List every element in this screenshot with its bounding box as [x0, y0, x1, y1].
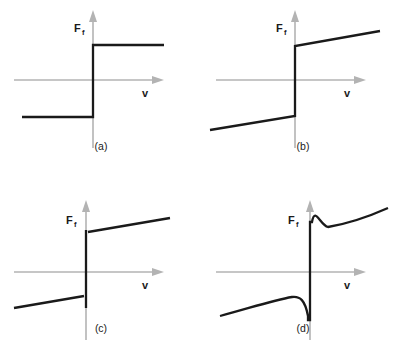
plot-b: F f v [202, 0, 404, 181]
x-axis-arrow-d [354, 268, 366, 276]
curve-a [22, 45, 164, 117]
curve-c-positive [88, 218, 170, 232]
panel-stribeck-friction: F f v (d) [202, 180, 404, 360]
panel-stiction-friction: F f v (c) [0, 180, 202, 360]
y-axis-label-a: F [74, 22, 81, 34]
y-axis-label-sub-b: f [284, 28, 287, 37]
y-axis-label-sub-d: f [296, 220, 299, 229]
x-axis-arrow-b [354, 76, 366, 84]
panel-caption-c: (c) [0, 322, 202, 334]
panel-coulomb-friction: F f v (a) [0, 0, 202, 180]
panel-caption-b: (b) [202, 140, 404, 152]
panel-caption-a: (a) [0, 140, 202, 152]
x-axis-label-b: v [344, 87, 351, 99]
y-axis-label-d: F [288, 214, 295, 226]
y-axis-label-sub-a: f [82, 28, 85, 37]
y-axis-arrow-b [291, 10, 299, 22]
curve-d [220, 208, 388, 320]
y-axis-arrow-a [89, 10, 97, 22]
y-axis-label-c: F [66, 214, 73, 226]
x-axis-label-d: v [344, 279, 351, 291]
y-axis-arrow-d [306, 200, 314, 212]
y-axis-label-sub-c: f [74, 220, 77, 229]
x-axis-label-a: v [142, 87, 149, 99]
figure-grid: F f v (a) F f v (b) [0, 0, 404, 361]
curve-c-negative [14, 296, 84, 308]
y-axis-label-b: F [276, 22, 283, 34]
plot-a: F f v [0, 0, 202, 181]
panel-caption-d: (d) [202, 322, 404, 334]
x-axis-arrow-c [152, 268, 164, 276]
panel-coulomb-viscous-friction: F f v (b) [202, 0, 404, 180]
y-axis-arrow-c [82, 200, 90, 212]
x-axis-arrow-a [152, 76, 164, 84]
x-axis-label-c: v [142, 279, 149, 291]
